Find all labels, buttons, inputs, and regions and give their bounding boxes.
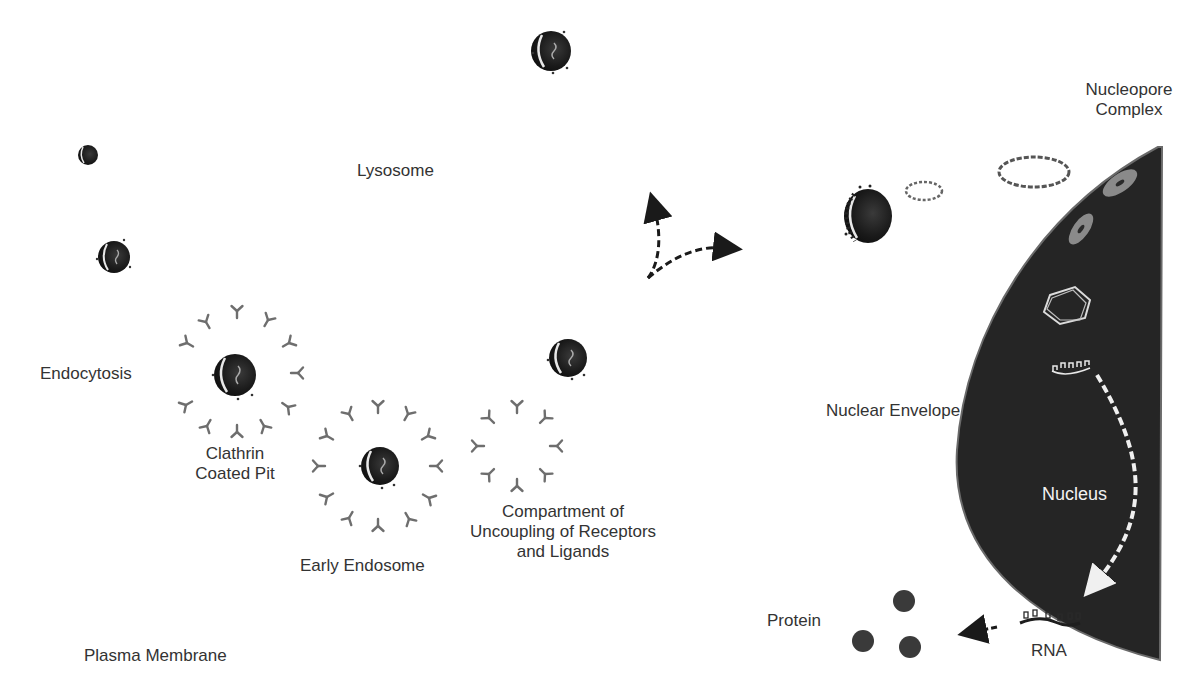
label-nucleopore-complex: Nucleopore Complex bbox=[1074, 80, 1184, 120]
vesicle-icon bbox=[359, 447, 399, 489]
vesicle-icon bbox=[844, 185, 892, 244]
vesicle-icon bbox=[547, 339, 587, 380]
translation-arrow bbox=[972, 627, 997, 632]
label-nuclear-envelope: Nuclear Envelope bbox=[826, 401, 960, 421]
branch-arrows bbox=[648, 206, 728, 278]
vesicle-icon bbox=[78, 145, 98, 165]
label-protein: Protein bbox=[767, 611, 821, 631]
vesicle-icon bbox=[96, 239, 131, 273]
vesicle-icon bbox=[212, 354, 256, 400]
nucleopore-complex-rings bbox=[906, 157, 1069, 200]
vesicles bbox=[78, 31, 892, 490]
label-early-endosome: Early Endosome bbox=[300, 556, 425, 576]
label-lysosome: Lysosome bbox=[357, 161, 434, 181]
label-plasma-membrane: Plasma Membrane bbox=[84, 646, 227, 666]
vesicle-icon bbox=[531, 31, 571, 75]
label-nucleus: Nucleus bbox=[1042, 484, 1107, 504]
nucleus-shape bbox=[957, 147, 1162, 660]
label-clathrin-coated-pit: Clathrin Coated Pit bbox=[180, 444, 290, 484]
endocytosis-nucleus-diagram bbox=[0, 0, 1189, 692]
label-endocytosis: Endocytosis bbox=[40, 364, 132, 384]
protein-spheres bbox=[852, 590, 921, 658]
label-curl: Compartment of Uncoupling of Receptors a… bbox=[458, 502, 668, 562]
curl-receptors bbox=[472, 401, 562, 491]
label-rna: RNA bbox=[1031, 641, 1067, 661]
